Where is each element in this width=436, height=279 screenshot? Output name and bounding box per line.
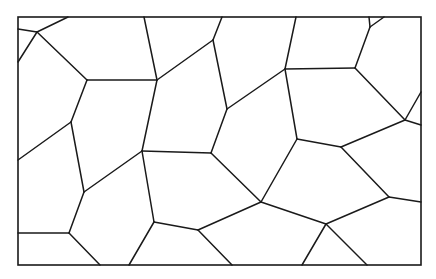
cell-edge (285, 17, 296, 69)
cell-edges (18, 17, 421, 265)
cell-edge (341, 120, 405, 147)
cell-edge (213, 40, 227, 109)
cell-edge (213, 17, 222, 40)
cell-edge (227, 69, 285, 109)
cell-edge (18, 122, 71, 160)
cell-edge (261, 139, 297, 202)
cell-edge (405, 120, 421, 125)
cell-edge (142, 80, 157, 151)
cell-edge (69, 233, 100, 265)
cell-edge (355, 27, 370, 68)
cell-edge (18, 29, 37, 32)
cell-edge (285, 69, 297, 139)
cell-edge (211, 153, 261, 202)
cell-edge (142, 151, 211, 153)
cell-edge (157, 40, 213, 80)
cell-edge (405, 92, 421, 120)
cell-edge (302, 224, 326, 265)
cell-edge (84, 151, 142, 192)
cell-edge (198, 230, 232, 265)
cell-edge (341, 147, 389, 197)
cell-edge (285, 68, 355, 69)
cell-edge (71, 80, 87, 122)
cell-edge (211, 109, 227, 153)
cell-edge (370, 17, 384, 27)
cell-edge (326, 197, 389, 224)
cell-edge (37, 17, 68, 32)
cell-edge (144, 17, 157, 80)
cell-edge (389, 197, 421, 202)
voronoi-diagram (0, 0, 436, 279)
cell-edge (37, 32, 87, 80)
cell-edge (142, 151, 154, 222)
cell-edge (261, 202, 326, 224)
cell-edge (326, 224, 367, 265)
cell-edge (18, 32, 37, 62)
cell-edge (369, 17, 370, 27)
cell-edge (198, 202, 261, 230)
cell-edge (355, 68, 405, 120)
cell-edge (297, 139, 341, 147)
cell-edge (154, 222, 198, 230)
cell-edge (69, 192, 84, 233)
cell-edge (71, 122, 84, 192)
cell-edge (129, 222, 154, 265)
